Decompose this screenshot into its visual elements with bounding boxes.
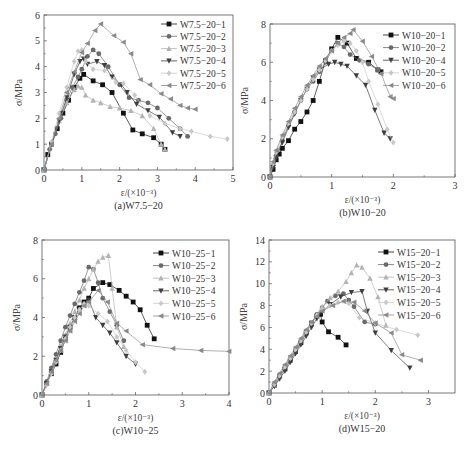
data-point-marker bbox=[92, 28, 97, 33]
data-point-marker bbox=[77, 290, 82, 295]
legend-item: W10−20−6 bbox=[383, 81, 446, 91]
legend-item: W7.5−20−4 bbox=[161, 56, 226, 66]
data-point-marker bbox=[326, 329, 331, 334]
data-point-marker bbox=[95, 288, 100, 293]
x-axis-label: ε/(×10⁻³) bbox=[345, 195, 381, 206]
figure-caption bbox=[40, 438, 450, 446]
y-tick-label: 5 bbox=[35, 35, 40, 46]
data-point-marker bbox=[399, 352, 404, 357]
data-point-marker bbox=[79, 67, 84, 72]
data-point-marker bbox=[366, 62, 371, 67]
legend-item: W7.5−20−5 bbox=[161, 69, 226, 79]
x-tick-label: 4 bbox=[227, 398, 232, 409]
data-point-marker bbox=[198, 348, 203, 353]
y-tick-label: 14 bbox=[255, 235, 265, 246]
data-point-marker bbox=[369, 54, 374, 59]
data-point-marker bbox=[86, 265, 91, 270]
y-tick-label: 4 bbox=[35, 61, 40, 72]
x-tick-label: 1 bbox=[329, 180, 334, 191]
y-tick-label: 6 bbox=[260, 322, 265, 333]
legend-item: W15−20−5 bbox=[378, 298, 441, 308]
legend-label: W10−25−2 bbox=[172, 261, 216, 271]
legend-item: W10−25−2 bbox=[153, 261, 216, 271]
data-point-marker bbox=[130, 128, 135, 133]
legend-item: W10−25−6 bbox=[153, 312, 216, 322]
x-axis-label: ε/(×10⁻³) bbox=[344, 411, 380, 422]
data-point-marker bbox=[225, 136, 230, 142]
data-point-marker bbox=[123, 354, 128, 359]
series-line bbox=[269, 302, 418, 393]
x-axis-ticks: 012345 bbox=[42, 167, 236, 184]
x-tick-label: 0 bbox=[42, 173, 47, 184]
data-point-marker bbox=[338, 294, 343, 299]
data-point-marker bbox=[415, 332, 420, 338]
data-point-marker bbox=[151, 135, 156, 140]
x-tick-label: 0 bbox=[268, 180, 273, 191]
data-point-marker bbox=[146, 100, 151, 105]
x-tick-label: 3 bbox=[180, 398, 185, 409]
series-line bbox=[44, 50, 188, 170]
legend-item: W7.5−20−3 bbox=[161, 44, 226, 54]
data-point-marker bbox=[286, 138, 291, 143]
y-tick-label: 12 bbox=[255, 256, 265, 267]
data-point-marker bbox=[298, 119, 303, 124]
data-point-marker bbox=[121, 111, 126, 116]
data-point-marker bbox=[86, 276, 91, 281]
data-series bbox=[267, 60, 393, 180]
legend-label: W7.5−20−1 bbox=[180, 20, 226, 30]
data-point-marker bbox=[336, 335, 341, 340]
y-tick-label: 2 bbox=[260, 366, 265, 377]
panel-title: (c)W10−25 bbox=[112, 425, 158, 437]
legend-item: W10−25−4 bbox=[153, 286, 216, 296]
y-tick-label: 8 bbox=[33, 235, 38, 246]
legend-item: W15−20−4 bbox=[378, 285, 441, 295]
legend-label: W7.5−20−4 bbox=[180, 56, 226, 66]
data-point-marker bbox=[128, 51, 133, 56]
data-point-marker bbox=[168, 96, 173, 101]
x-tick-label: 1 bbox=[79, 173, 84, 184]
y-tick-label: 2 bbox=[33, 351, 38, 362]
data-point-marker bbox=[363, 83, 368, 88]
data-point-marker bbox=[166, 116, 171, 121]
legend-label: W15−20−6 bbox=[397, 311, 441, 321]
series-line bbox=[42, 283, 154, 395]
legend-label: W15−20−2 bbox=[397, 260, 441, 270]
legend-marker-icon bbox=[389, 45, 394, 50]
x-tick-label: 1 bbox=[320, 396, 325, 407]
legend: W7.5−20−1W7.5−20−2W7.5−20−3W7.5−20−4W7.5… bbox=[161, 20, 226, 92]
data-point-marker bbox=[100, 280, 105, 285]
series-line bbox=[44, 86, 165, 170]
x-tick-label: 3 bbox=[453, 180, 458, 191]
series-line bbox=[270, 62, 390, 177]
legend-marker-icon bbox=[166, 83, 171, 88]
legend-label: W10−20−1 bbox=[402, 31, 446, 41]
legend-item: W10−20−2 bbox=[383, 43, 446, 53]
data-point-marker bbox=[335, 35, 340, 40]
data-point-marker bbox=[391, 140, 396, 146]
legend-label: W15−20−3 bbox=[397, 273, 441, 283]
series-line bbox=[44, 74, 165, 170]
data-series bbox=[266, 262, 388, 395]
legend-marker-icon bbox=[167, 34, 172, 39]
x-tick-label: 0 bbox=[267, 396, 272, 407]
legend-marker-icon bbox=[384, 300, 389, 306]
data-point-marker bbox=[192, 107, 197, 112]
legend-label: W10−20−4 bbox=[402, 56, 446, 66]
legend-marker-icon bbox=[167, 70, 172, 76]
legend-item: W15−20−3 bbox=[378, 273, 441, 283]
legend-item: W10−20−1 bbox=[383, 31, 446, 41]
legend: W10−20−1W10−20−2W10−20−4W10−20−5W10−20−6 bbox=[383, 31, 446, 91]
series-line bbox=[269, 314, 346, 393]
legend-marker-icon bbox=[159, 251, 164, 256]
data-point-marker bbox=[354, 262, 359, 267]
data-point-marker bbox=[147, 82, 152, 87]
data-point-marker bbox=[320, 320, 325, 325]
data-point-marker bbox=[344, 343, 349, 348]
data-point-marker bbox=[359, 264, 364, 269]
legend-item: W10−20−5 bbox=[383, 68, 446, 78]
data-point-marker bbox=[68, 313, 73, 318]
legend-label: W10−25−5 bbox=[172, 299, 216, 309]
y-tick-label: 6 bbox=[33, 273, 38, 284]
panel-d: 012302468101214ε/(×10⁻³)σ/MPa(d)W15−20W1… bbox=[238, 235, 455, 436]
y-tick-label: 6 bbox=[261, 57, 266, 68]
